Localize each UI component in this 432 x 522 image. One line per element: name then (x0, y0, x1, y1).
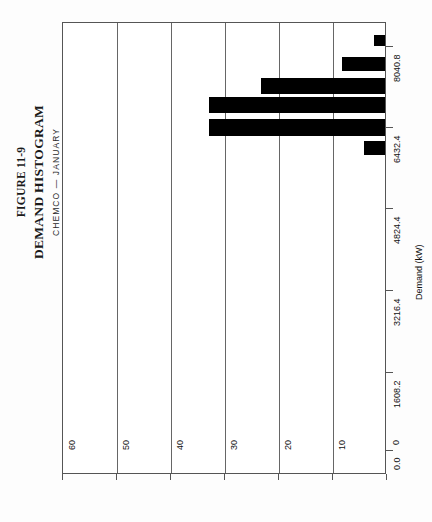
freq-tick-50 (116, 474, 117, 480)
gridline-50 (117, 23, 118, 473)
demand-tick-3216 (386, 290, 393, 291)
demand-label-4824: 4824.4 (392, 216, 402, 244)
freq-label-20: 20 (283, 440, 293, 480)
bar-1 (374, 35, 385, 46)
freq-label-60: 60 (67, 440, 77, 480)
gridline-40 (171, 23, 172, 473)
demand-tick-0 (386, 450, 393, 451)
freq-tick-10 (332, 474, 333, 480)
bar-6 (364, 141, 385, 155)
freq-label-30: 30 (229, 440, 239, 480)
demand-tick-4824 (386, 208, 393, 209)
demand-tick-8040 (386, 46, 393, 47)
freq-label-50: 50 (121, 440, 131, 480)
demand-label-6432: 6432.4 (392, 135, 402, 163)
demand-tick-6432 (386, 127, 393, 128)
figure-subtitle: CHEMCO — JANUARY (51, 32, 61, 332)
bar-4 (209, 97, 385, 113)
freq-label-40: 40 (175, 440, 185, 480)
demand-label-1608: 1608.2 (392, 380, 402, 408)
demand-axis-title: Demand (kW) (414, 244, 424, 300)
freq-tick-30 (224, 474, 225, 480)
freq-tick-20 (278, 474, 279, 480)
bar-3 (261, 78, 385, 94)
demand-label-0: 0.0 (392, 457, 402, 470)
bar-2 (342, 57, 385, 71)
gridline-30 (225, 23, 226, 473)
page-title: DEMAND HISTOGRAM (30, 32, 48, 332)
freq-tick-60 (62, 474, 63, 480)
demand-tick-1608 (386, 372, 393, 373)
demand-label-3216: 3216.4 (392, 298, 402, 326)
freq-label-10: 10 (337, 440, 347, 480)
demand-label-8040: 8040.8 (392, 54, 402, 82)
figure-number: FIGURE 11-9 (14, 32, 30, 332)
freq-tick-0 (386, 474, 387, 480)
freq-tick-40 (170, 474, 171, 480)
bar-5 (209, 119, 385, 136)
plot-area (62, 22, 386, 474)
figure-page: FIGURE 11-9 DEMAND HISTOGRAM CHEMCO — JA… (0, 0, 432, 522)
figure-title-block: FIGURE 11-9 DEMAND HISTOGRAM CHEMCO — JA… (14, 32, 61, 332)
